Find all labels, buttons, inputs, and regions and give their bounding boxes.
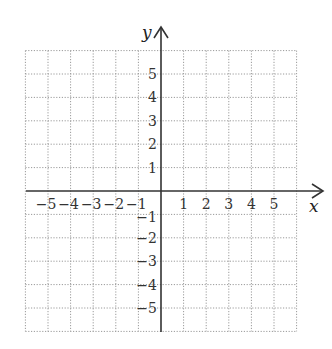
y-tick-label: −1 bbox=[136, 209, 157, 225]
y-tick-label: 3 bbox=[148, 113, 157, 129]
x-tick-label: 3 bbox=[224, 196, 233, 212]
x-tick-labels: −5−4−3−2−112345 bbox=[36, 196, 279, 212]
x-tick-label: −2 bbox=[103, 196, 124, 212]
x-axis-label: x bbox=[309, 196, 319, 216]
x-tick-label: −3 bbox=[81, 196, 102, 212]
x-tick-label: 1 bbox=[179, 196, 188, 212]
y-tick-label: −5 bbox=[136, 300, 157, 316]
y-tick-label: 1 bbox=[148, 160, 157, 176]
y-tick-label: −3 bbox=[136, 253, 157, 269]
x-tick-label: 2 bbox=[202, 196, 211, 212]
x-tick-label: 5 bbox=[270, 196, 279, 212]
y-axis-label: y bbox=[141, 22, 152, 42]
y-tick-label: −4 bbox=[136, 277, 157, 293]
y-tick-label: 4 bbox=[148, 89, 157, 105]
y-tick-label: −2 bbox=[136, 230, 157, 246]
y-tick-label: 2 bbox=[148, 136, 157, 152]
x-tick-label: −5 bbox=[36, 196, 57, 212]
x-tick-label: −4 bbox=[58, 196, 79, 212]
coordinate-plane: x y −5−4−3−2−112345 54321−1−2−3−4−5 bbox=[0, 0, 332, 349]
y-tick-label: 5 bbox=[148, 66, 157, 82]
x-tick-label: 4 bbox=[247, 196, 256, 212]
